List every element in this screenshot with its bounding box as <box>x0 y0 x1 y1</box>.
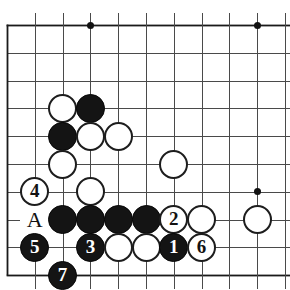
stone-white[interactable] <box>76 122 105 151</box>
stone-white[interactable] <box>243 205 272 234</box>
stone-black-move-5[interactable]: 5 <box>20 233 49 262</box>
stone-white[interactable] <box>48 150 77 179</box>
stone-black-move-1[interactable]: 1 <box>159 233 188 262</box>
move-number: 1 <box>169 237 179 256</box>
move-number: 2 <box>169 209 179 228</box>
stone-white-move-6[interactable]: 6 <box>187 233 216 262</box>
stone-black-move-3[interactable]: 3 <box>76 233 105 262</box>
go-board[interactable]: A4253167 <box>0 0 290 290</box>
stone-white-move-2[interactable]: 2 <box>159 205 188 234</box>
stone-black[interactable] <box>48 205 77 234</box>
stone-white-move-4[interactable]: 4 <box>20 177 49 206</box>
move-number: 3 <box>86 237 96 256</box>
move-number: 6 <box>197 237 207 256</box>
grid-line-vertical <box>257 13 258 289</box>
stone-white[interactable] <box>76 177 105 206</box>
star-point <box>254 188 261 195</box>
stone-black[interactable] <box>132 205 161 234</box>
grid-line-vertical <box>285 13 286 289</box>
grid-line-horizontal <box>7 192 290 193</box>
move-number: 7 <box>58 265 68 284</box>
stone-black[interactable] <box>48 122 77 151</box>
stone-white[interactable] <box>104 122 133 151</box>
grid-line-vertical <box>7 25 8 275</box>
stone-white[interactable] <box>104 233 133 262</box>
stone-black[interactable] <box>76 94 105 123</box>
grid-line-vertical <box>229 13 230 289</box>
stone-black[interactable] <box>76 205 105 234</box>
star-point <box>254 22 261 29</box>
stone-white[interactable] <box>132 233 161 262</box>
stone-white[interactable] <box>159 150 188 179</box>
stone-black[interactable] <box>104 205 133 234</box>
go-board-figure: A4253167 <box>0 0 290 290</box>
grid-line-horizontal <box>7 25 290 26</box>
stone-white[interactable] <box>187 205 216 234</box>
stone-black-move-7[interactable]: 7 <box>48 261 77 290</box>
grid-line-horizontal <box>7 53 290 54</box>
grid-line-horizontal <box>7 81 290 82</box>
stone-white[interactable] <box>48 94 77 123</box>
move-number: 4 <box>30 181 40 200</box>
star-point <box>87 22 94 29</box>
move-number: 5 <box>30 237 40 256</box>
point-label-a[interactable]: A <box>20 205 50 235</box>
